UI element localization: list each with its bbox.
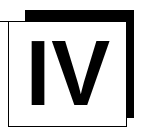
logo-canvas: IV [0,0,146,137]
outlined-panel-shape [8,21,127,127]
